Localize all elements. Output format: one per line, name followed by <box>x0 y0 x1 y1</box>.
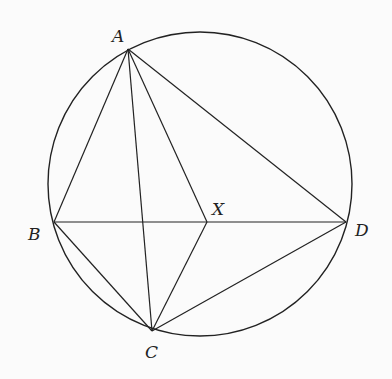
label-point-x: X <box>210 199 225 219</box>
geometry-diagram: ABCDX <box>0 0 392 379</box>
segment-xc <box>152 222 207 331</box>
segment-ax <box>128 49 207 222</box>
segment-dc <box>152 222 346 331</box>
label-point-d: D <box>354 220 369 240</box>
segment-bc <box>54 222 152 331</box>
label-point-c: C <box>145 342 158 362</box>
segment-ad <box>128 49 346 222</box>
label-point-a: A <box>110 26 124 46</box>
point-labels: ABCDX <box>27 26 369 362</box>
circumcircle <box>48 32 352 336</box>
segment-ac <box>128 49 152 331</box>
segment-ab <box>54 49 128 222</box>
label-point-b: B <box>27 224 41 244</box>
segments <box>54 49 346 331</box>
